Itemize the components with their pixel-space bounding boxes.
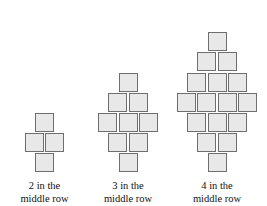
pattern-square: [208, 73, 227, 92]
pattern-row: [187, 112, 248, 132]
pattern-row: [34, 153, 54, 173]
pattern-square: [228, 113, 247, 132]
pattern-row: [207, 32, 227, 52]
pattern-square: [119, 153, 138, 172]
pattern-square: [218, 52, 237, 71]
pattern-square: [218, 93, 237, 112]
pattern-square: [197, 133, 216, 152]
square-pattern: [24, 112, 64, 173]
pattern-square: [208, 32, 227, 51]
pattern-row: [187, 72, 248, 92]
figure-board: 2 in the middle row 3 in the middle row …: [0, 0, 267, 205]
pattern-square: [108, 133, 127, 152]
figure-group-4-middle: 4 in the middle row: [167, 32, 267, 205]
pattern-square: [228, 73, 247, 92]
pattern-square: [177, 93, 196, 112]
pattern-row: [207, 153, 227, 173]
pattern-square: [25, 133, 44, 152]
pattern-row: [34, 112, 54, 132]
pattern-row: [118, 72, 138, 92]
square-pattern: [98, 72, 159, 173]
pattern-row: [177, 92, 258, 112]
pattern-row: [197, 52, 237, 72]
pattern-square: [108, 93, 127, 112]
figure-caption: 2 in the middle row: [20, 180, 68, 205]
pattern-square: [238, 93, 257, 112]
pattern-row: [108, 92, 148, 112]
pattern-square: [139, 113, 158, 132]
square-pattern: [177, 32, 258, 173]
pattern-row: [197, 133, 237, 153]
pattern-square: [187, 73, 206, 92]
pattern-row: [98, 112, 159, 132]
pattern-square: [45, 133, 64, 152]
caption-line-1: 4 in the: [193, 180, 241, 193]
caption-line-2: middle row: [104, 193, 152, 206]
pattern-square: [208, 153, 227, 172]
pattern-square: [98, 113, 117, 132]
pattern-square: [35, 153, 54, 172]
figure-group-2-middle: 2 in the middle row: [0, 112, 89, 205]
figure-caption: 4 in the middle row: [193, 180, 241, 205]
pattern-square: [35, 113, 54, 132]
pattern-square: [129, 133, 148, 152]
pattern-square: [208, 113, 227, 132]
pattern-row: [108, 133, 148, 153]
caption-line-2: middle row: [193, 193, 241, 206]
pattern-square: [218, 133, 237, 152]
caption-line-2: middle row: [20, 193, 68, 206]
pattern-square: [187, 113, 206, 132]
figure-caption: 3 in the middle row: [104, 180, 152, 205]
pattern-row: [118, 153, 138, 173]
pattern-square: [197, 93, 216, 112]
pattern-square: [129, 93, 148, 112]
figure-group-3-middle: 3 in the middle row: [89, 72, 167, 205]
pattern-square: [197, 52, 216, 71]
caption-line-1: 2 in the: [20, 180, 68, 193]
pattern-square: [119, 73, 138, 92]
pattern-row: [24, 133, 64, 153]
pattern-square: [119, 113, 138, 132]
caption-line-1: 3 in the: [104, 180, 152, 193]
